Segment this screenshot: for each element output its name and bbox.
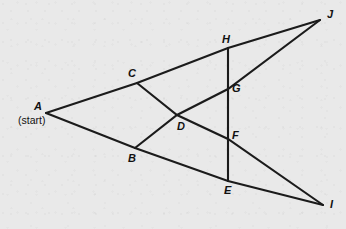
vertex-label-d: D: [177, 121, 185, 132]
vertex-label-e: E: [224, 185, 232, 196]
vertex-label-a: A: [34, 101, 42, 112]
vertex-label-i: I: [330, 199, 333, 210]
vertex-label-j: J: [327, 9, 333, 20]
vertex-label-h: H: [222, 34, 230, 45]
figure-canvas: [0, 0, 346, 229]
edge-group: [46, 20, 323, 205]
vertex-label-b: B: [128, 153, 136, 164]
vertex-label-c: C: [128, 68, 136, 79]
path-a-c-h-j: [46, 20, 320, 113]
vertex-label-f: F: [232, 130, 239, 141]
vertex-label-g: G: [232, 83, 241, 94]
start-note: (start): [18, 115, 45, 126]
geometry-diagram: A (start) B C D E F G H I J: [0, 0, 346, 229]
